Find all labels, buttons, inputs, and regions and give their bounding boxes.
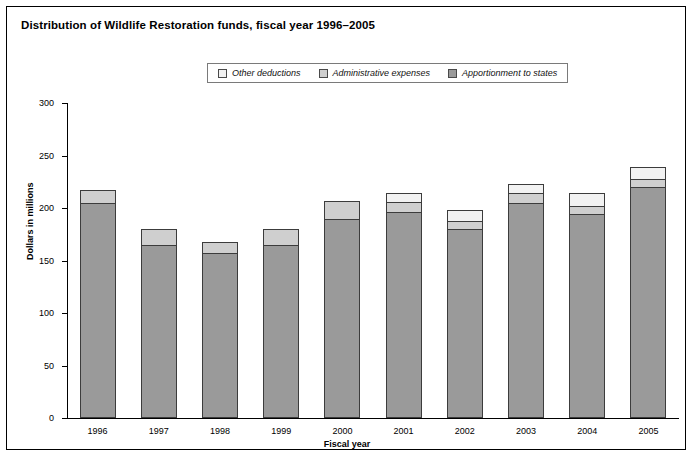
x-axis-tick-label: 1999 (263, 426, 299, 436)
y-axis-line (67, 103, 68, 418)
bar-group[interactable]: 2002 (447, 103, 483, 418)
legend-swatch-icon (218, 69, 227, 78)
y-axis-tick: 250 (62, 156, 67, 157)
bar-segment[interactable] (386, 212, 422, 418)
y-axis-tick-label: 200 (39, 203, 54, 213)
x-axis-line (67, 418, 679, 419)
bar-group[interactable]: 2000 (324, 103, 360, 418)
bar-group[interactable]: 1998 (202, 103, 238, 418)
y-axis-tick: 50 (62, 366, 67, 367)
bar-group[interactable]: 2001 (386, 103, 422, 418)
y-axis-tick-label: 100 (39, 308, 54, 318)
y-axis-tick-label: 300 (39, 98, 54, 108)
stacked-bar[interactable] (202, 242, 238, 418)
stacked-bar[interactable] (263, 229, 299, 418)
y-axis-tick: 300 (62, 103, 67, 104)
bar-group[interactable]: 2004 (569, 103, 605, 418)
bar-group[interactable]: 1996 (80, 103, 116, 418)
chart-frame: Distribution of Wildlife Restoration fun… (6, 6, 686, 450)
bar-group[interactable]: 2003 (508, 103, 544, 418)
legend-item[interactable]: Administrative expenses (319, 68, 431, 78)
stacked-bar[interactable] (324, 201, 360, 418)
legend-swatch-icon (319, 69, 328, 78)
x-axis-tick-label: 1997 (141, 426, 177, 436)
bar-segment[interactable] (508, 203, 544, 418)
x-axis-tick-label: 2003 (508, 426, 544, 436)
x-axis-tick-label: 2000 (324, 426, 360, 436)
bar-segment[interactable] (324, 201, 360, 220)
bar-segment[interactable] (263, 245, 299, 418)
y-axis-label: Dollars in millions (25, 182, 35, 260)
x-axis-tick-label: 2001 (386, 426, 422, 436)
bar-segment[interactable] (263, 229, 299, 246)
bar-segment[interactable] (324, 219, 360, 419)
page-title: Distribution of Wildlife Restoration fun… (21, 19, 375, 31)
legend-item[interactable]: Other deductions (218, 68, 301, 78)
stacked-bar[interactable] (141, 229, 177, 418)
bar-segment[interactable] (569, 193, 605, 207)
y-axis-tick: 0 (62, 418, 67, 419)
stacked-bar[interactable] (569, 193, 605, 418)
legend-item-label: Administrative expenses (333, 68, 431, 78)
bar-segment[interactable] (80, 190, 116, 204)
chart-figure: Distribution of Wildlife Restoration fun… (0, 0, 692, 456)
bar-segment[interactable] (141, 245, 177, 418)
bar-segment[interactable] (80, 203, 116, 418)
stacked-bar[interactable] (447, 210, 483, 418)
y-axis-tick: 100 (62, 313, 67, 314)
y-axis-tick: 200 (62, 208, 67, 209)
bar-segment[interactable] (447, 229, 483, 418)
x-axis-tick-label: 2004 (569, 426, 605, 436)
legend-item-label: Other deductions (232, 68, 301, 78)
bar-segment[interactable] (569, 214, 605, 418)
y-axis-tick-label: 250 (39, 151, 54, 161)
stacked-bar[interactable] (386, 193, 422, 418)
stacked-bar[interactable] (630, 167, 666, 418)
legend-item-label: Apportionment to states (462, 68, 557, 78)
x-axis-tick-label: 2002 (447, 426, 483, 436)
bar-segment[interactable] (202, 253, 238, 418)
stacked-bar[interactable] (80, 190, 116, 418)
legend-item[interactable]: Apportionment to states (448, 68, 557, 78)
bar-group[interactable]: 2005 (630, 103, 666, 418)
bar-segment[interactable] (630, 187, 666, 418)
x-axis-tick-label: 2005 (630, 426, 666, 436)
bar-group[interactable]: 1999 (263, 103, 299, 418)
y-axis-tick-label: 150 (39, 256, 54, 266)
y-axis-tick-label: 50 (44, 361, 54, 371)
legend-swatch-icon (448, 69, 457, 78)
bar-segment[interactable] (141, 229, 177, 246)
y-axis-tick-label: 0 (49, 413, 54, 423)
x-axis-tick-label: 1998 (202, 426, 238, 436)
y-axis-tick: 150 (62, 261, 67, 262)
chart-legend: Other deductionsAdministrative expensesA… (207, 63, 568, 83)
stacked-bar[interactable] (508, 184, 544, 418)
plot-area: 0501001502002503001996199719981999200020… (67, 103, 679, 418)
x-axis-label: Fiscal year (7, 439, 687, 449)
bar-group[interactable]: 1997 (141, 103, 177, 418)
x-axis-tick-label: 1996 (80, 426, 116, 436)
